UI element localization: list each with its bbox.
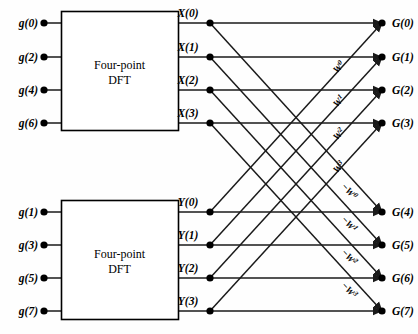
output-node-G(4) — [378, 208, 385, 215]
input-label-g(4): g(4) — [18, 84, 38, 97]
stage-label-X(0): X(0) — [176, 7, 198, 20]
input-node-g(3) — [40, 241, 47, 248]
twiddle-text: W0 — [330, 58, 347, 75]
stage-node-X(1) — [206, 53, 213, 60]
output-label-G(5): G(5) — [392, 239, 414, 252]
stage-label-Y(0): Y(0) — [178, 196, 199, 209]
input-label-g(1): g(1) — [18, 206, 38, 219]
stage-node-Y(0) — [206, 208, 213, 215]
twiddle-text: W3 — [330, 158, 347, 175]
stage-node-X(2) — [206, 86, 213, 93]
stage-label-Y(1): Y(1) — [178, 229, 199, 242]
butterfly-diagram-canvas: Four-pointDFTFour-pointDFTg(0)g(2)g(4)g(… — [0, 0, 418, 334]
output-node-G(0) — [378, 19, 385, 26]
dft-block-label-line2: DFT — [108, 262, 131, 276]
input-label-g(0): g(0) — [18, 17, 38, 30]
input-node-g(2) — [40, 53, 47, 60]
input-label-g(2): g(2) — [18, 51, 38, 64]
output-node-G(5) — [378, 241, 385, 248]
dft-block-label-line1: Four-point — [94, 58, 146, 72]
twiddle-label-positive-1: W1 — [330, 93, 346, 109]
input-node-g(7) — [40, 307, 47, 314]
stage-label-Y(2): Y(2) — [178, 262, 199, 275]
twiddle-label-positive-3: W3 — [330, 158, 347, 175]
stage-label-Y(3): Y(3) — [178, 295, 199, 308]
input-node-g(0) — [40, 19, 47, 26]
output-label-G(0): G(0) — [392, 17, 414, 30]
input-label-g(5): g(5) — [18, 272, 38, 285]
input-label-g(3): g(3) — [18, 239, 38, 252]
stage-label-X(1): X(1) — [176, 41, 198, 54]
dft-block-label-line1: Four-point — [94, 247, 146, 261]
stage-node-Y(3) — [206, 307, 213, 314]
input-node-g(4) — [40, 86, 47, 93]
input-label-g(7): g(7) — [18, 305, 38, 318]
output-label-G(4): G(4) — [392, 206, 414, 219]
output-node-G(1) — [378, 53, 385, 60]
stage-node-X(3) — [206, 119, 213, 126]
output-node-G(3) — [378, 119, 385, 126]
dft-block-label-line2: DFT — [108, 73, 131, 87]
twiddle-label-positive-2: W2 — [330, 125, 347, 142]
stage-label-X(3): X(3) — [176, 107, 198, 120]
output-node-G(2) — [378, 86, 385, 93]
signal-flow-graph: Four-pointDFTFour-pointDFTg(0)g(2)g(4)g(… — [0, 0, 418, 334]
input-node-g(6) — [40, 119, 47, 126]
input-node-g(1) — [40, 208, 47, 215]
twiddle-label-positive-0: W0 — [330, 58, 347, 75]
output-label-G(7): G(7) — [392, 305, 414, 318]
stage-node-Y(2) — [206, 274, 213, 281]
stage-label-X(2): X(2) — [176, 74, 198, 87]
output-label-G(6): G(6) — [392, 272, 414, 285]
output-node-G(7) — [378, 307, 385, 314]
twiddle-text: W1 — [330, 93, 346, 109]
twiddle-text: W2 — [330, 125, 347, 142]
output-label-G(1): G(1) — [392, 51, 414, 64]
stage-node-X(0) — [206, 19, 213, 26]
output-label-G(3): G(3) — [392, 117, 414, 130]
stage-node-Y(1) — [206, 241, 213, 248]
output-node-G(6) — [378, 274, 385, 281]
output-label-G(2): G(2) — [392, 84, 414, 97]
input-label-g(6): g(6) — [18, 117, 38, 130]
input-node-g(5) — [40, 274, 47, 281]
